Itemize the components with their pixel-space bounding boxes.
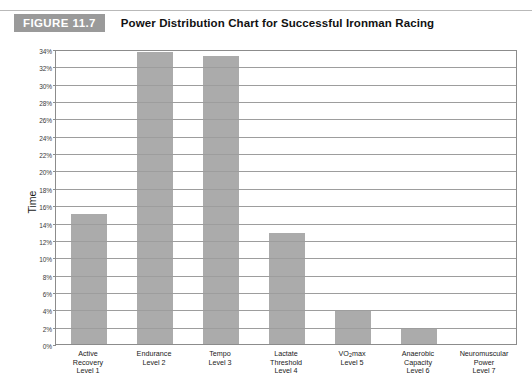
y-axis-tick-label: 0%	[43, 343, 52, 350]
bar-slot	[122, 51, 188, 344]
y-axis-tick-label: 10%	[39, 256, 52, 263]
y-axis-tick-label: 6%	[43, 290, 52, 297]
y-axis-tick-label: 4%	[43, 308, 52, 315]
y-axis-tick-mark	[53, 137, 56, 138]
x-axis-category-label: ActiveRecoveryLevel 1	[55, 350, 121, 376]
bar-chart: Time 0%2%4%6%8%10%12%14%16%18%20%22%24%2…	[0, 44, 532, 388]
y-axis-tick-label: 26%	[39, 117, 52, 124]
y-axis-tick-label: 18%	[39, 186, 52, 193]
y-axis-tick-label: 14%	[39, 221, 52, 228]
grid-line	[56, 189, 516, 190]
y-axis-tick-mark	[53, 67, 56, 68]
plot-area: 0%2%4%6%8%10%12%14%16%18%20%22%24%26%28%…	[55, 50, 517, 345]
y-axis-tick-mark	[53, 171, 56, 172]
figure-badge-number: 11.7	[72, 17, 95, 29]
bar	[401, 328, 438, 344]
grid-line	[56, 258, 516, 259]
y-axis-tick-mark	[53, 224, 56, 225]
y-axis-tick-label: 24%	[39, 134, 52, 141]
x-axis-category-label: AnaerobicCapacityLevel 6	[385, 350, 451, 376]
y-axis-tick-mark	[53, 310, 56, 311]
grid-line	[56, 241, 516, 242]
figure-title: Power Distribution Chart for Successful …	[121, 17, 434, 29]
y-axis-tick-mark	[53, 328, 56, 329]
figure-number-badge: FIGURE 11.7	[14, 14, 105, 32]
y-axis-tick-mark	[53, 119, 56, 120]
y-axis-tick-mark	[53, 85, 56, 86]
bar-slot	[188, 51, 254, 344]
y-axis-tick-mark	[53, 189, 56, 190]
bar-slot	[56, 51, 122, 344]
y-axis-tick-mark	[53, 276, 56, 277]
y-axis-tick-label: 32%	[39, 65, 52, 72]
bar	[137, 52, 174, 344]
bar-series	[56, 51, 516, 344]
y-axis-tick-mark	[53, 102, 56, 103]
y-axis-tick-mark	[53, 241, 56, 242]
y-axis-tick-mark	[53, 345, 56, 346]
bar-slot	[386, 51, 452, 344]
y-axis-tick-label: 20%	[39, 169, 52, 176]
grid-line	[56, 119, 516, 120]
bar	[203, 56, 240, 344]
y-axis-tick-label: 12%	[39, 238, 52, 245]
y-axis-tick-label: 8%	[43, 273, 52, 280]
grid-line	[56, 85, 516, 86]
grid-line	[56, 154, 516, 155]
x-axis-category-label: LactateThresholdLevel 4	[253, 350, 319, 376]
grid-line	[56, 224, 516, 225]
x-axis-category-label: VO2maxLevel 5	[319, 350, 385, 367]
x-axis-category-label: TempoLevel 3	[187, 350, 253, 367]
y-axis-tick-mark	[53, 50, 56, 51]
bar-slot	[452, 51, 518, 344]
grid-line	[56, 293, 516, 294]
grid-line	[56, 102, 516, 103]
grid-line	[56, 171, 516, 172]
bar-slot	[254, 51, 320, 344]
y-axis-tick-label: 28%	[39, 100, 52, 107]
figure-badge-label: FIGURE	[23, 17, 69, 29]
y-axis-tick-label: 16%	[39, 204, 52, 211]
y-axis-tick-label: 22%	[39, 152, 52, 159]
x-axis-labels: ActiveRecoveryLevel 1EnduranceLevel 2Tem…	[55, 350, 517, 388]
y-axis-title: Time	[26, 172, 38, 232]
grid-line	[56, 310, 516, 311]
grid-line	[56, 276, 516, 277]
y-axis-tick-label: 2%	[43, 325, 52, 332]
y-axis-tick-mark	[53, 154, 56, 155]
x-axis-category-label: EnduranceLevel 2	[121, 350, 187, 367]
y-axis-tick-label: 30%	[39, 82, 52, 89]
y-axis-tick-mark	[53, 206, 56, 207]
y-axis-tick-label: 34%	[39, 48, 52, 55]
y-axis-tick-mark	[53, 258, 56, 259]
figure-page: FIGURE 11.7 Power Distribution Chart for…	[0, 0, 532, 388]
grid-line	[56, 328, 516, 329]
bar-slot	[320, 51, 386, 344]
grid-line	[56, 67, 516, 68]
bar	[71, 214, 108, 344]
y-axis-tick-mark	[53, 293, 56, 294]
grid-line	[56, 137, 516, 138]
figure-header: FIGURE 11.7 Power Distribution Chart for…	[0, 10, 532, 35]
grid-line	[56, 206, 516, 207]
x-axis-category-label: NeuromuscularPowerLevel 7	[451, 350, 517, 376]
